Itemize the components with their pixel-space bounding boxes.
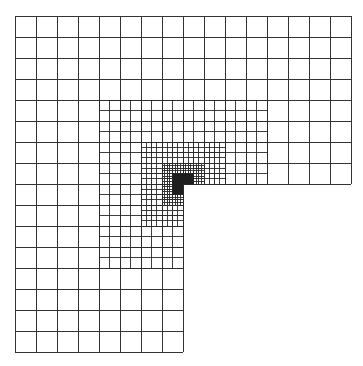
- l-shaped-mesh-figure: [0, 0, 363, 366]
- dense-mesh-region: [173, 174, 194, 195]
- dense-refinement-zone: [173, 174, 194, 195]
